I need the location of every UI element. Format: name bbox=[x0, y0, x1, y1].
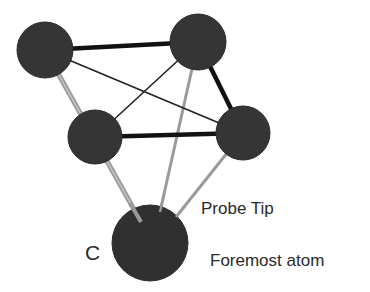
atom-top-right bbox=[170, 14, 226, 70]
probe-tip-diagram bbox=[0, 0, 370, 292]
atom-mid-left bbox=[68, 110, 122, 164]
atom-mid-right bbox=[216, 106, 270, 160]
bond-overlap-mid-right bbox=[176, 206, 185, 217]
element-label: C bbox=[85, 241, 100, 265]
probe-tip-label: Probe Tip bbox=[201, 199, 274, 219]
atom-top-left bbox=[17, 22, 73, 78]
atoms bbox=[17, 14, 270, 281]
foremost-atom-label: Foremost atom bbox=[210, 251, 324, 271]
